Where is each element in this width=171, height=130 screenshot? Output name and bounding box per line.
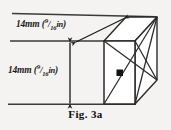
figure-container: 14mm (9/16in) 14mm (9/16in) Fig.3a: [0, 0, 171, 130]
figure-caption: Fig.3a: [0, 108, 171, 120]
dimension-value-side: 14mm: [8, 65, 31, 75]
fraction-denominator-top: 16: [50, 24, 56, 31]
fraction-top: 9/16: [45, 20, 57, 30]
fraction-denominator-side: 16: [42, 70, 48, 77]
dimension-label-top-width: 14mm (9/16in): [16, 20, 66, 30]
dimension-label-side-height: 14mm (9/16in): [8, 66, 58, 76]
caption-prefix: Fig.: [68, 108, 88, 120]
paren-close-top: ): [63, 19, 66, 29]
caption-number: 3a: [91, 108, 103, 120]
fraction-side: 9/16: [37, 66, 49, 76]
fraction-numerator-side: 9: [37, 63, 40, 71]
fraction-numerator-top: 9: [45, 17, 48, 25]
paren-close-side: ): [55, 65, 58, 75]
dimension-value-top: 14mm: [16, 19, 39, 29]
center-point-dot: [117, 70, 124, 77]
